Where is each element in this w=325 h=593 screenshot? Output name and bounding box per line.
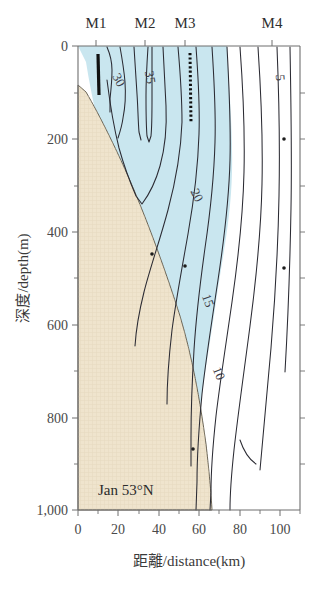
y-ticklabel: 1,000 [37, 503, 69, 518]
chart-svg: 30 35 20 15 10 5 [0, 0, 325, 593]
x-ticklabel: 40 [152, 522, 166, 537]
station-label-m1: M1 [86, 15, 107, 31]
x-axis-title: 距離/distance(km) [133, 552, 245, 570]
sample-point [282, 137, 286, 141]
y-ticklabel: 400 [47, 225, 68, 240]
x-ticklabel: 80 [233, 522, 247, 537]
station-label-m3: M3 [175, 15, 196, 31]
y-ticklabel: 0 [61, 39, 68, 54]
sample-point [191, 447, 195, 451]
sample-point [282, 266, 286, 270]
ocean-section-figure: 30 35 20 15 10 5 [0, 0, 325, 593]
x-ticklabel: 60 [192, 522, 206, 537]
sample-point [150, 252, 154, 256]
plot-area [78, 46, 300, 510]
x-ticklabel: 100 [270, 522, 291, 537]
plot-annotation: Jan 53°N [98, 482, 154, 498]
x-ticklabel: 20 [111, 522, 125, 537]
x-axis-ticklabels: 0 20 40 60 80 100 [75, 522, 291, 537]
mooring-marker-m1 [98, 54, 99, 95]
y-axis-ticklabels: 0 200 800 400 600 1,000 [37, 39, 69, 518]
station-ticks [96, 40, 272, 46]
contour-label-5: 5 [273, 74, 288, 82]
x-ticklabel: 0 [75, 522, 82, 537]
station-label-m4: M4 [262, 15, 283, 31]
y-ticklabel: 600 [47, 318, 68, 333]
y-ticklabel: 800 [47, 411, 68, 426]
y-ticklabel: 200 [47, 132, 68, 147]
contour-label-35: 35 [142, 70, 159, 85]
station-label-m2: M2 [135, 15, 156, 31]
station-labels: M1 M2 M3 M4 [86, 15, 283, 31]
y-axis-title: 深度/depth(m) [15, 233, 32, 322]
sample-point [183, 264, 187, 268]
x-axis-ticks [78, 510, 300, 516]
